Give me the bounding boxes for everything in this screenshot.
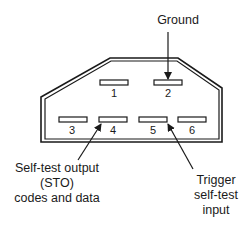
pin-2: 2: [154, 80, 182, 99]
sto-label-line-1: Self-test output: [15, 161, 100, 175]
trigger-label-line-3: input: [202, 203, 230, 217]
pin-3-label: 3: [69, 124, 75, 136]
pin-1-label: 1: [111, 87, 117, 99]
sto-callout: Self-test output (STO) codes and data: [14, 124, 101, 205]
pin-1: 1: [100, 80, 128, 99]
pin-6: 6: [178, 117, 206, 136]
pin-6-label: 6: [189, 124, 195, 136]
ground-callout: Ground: [157, 13, 199, 79]
ground-label: Ground: [157, 13, 199, 27]
trigger-label-line-2: self-test: [194, 188, 238, 202]
pin-2-label: 2: [165, 87, 171, 99]
pin-5-label: 5: [150, 124, 156, 136]
connector-diagram: 1 2 3 4 5 6 Ground Self-test output (STO…: [0, 0, 248, 225]
pin-4: 4: [99, 117, 127, 136]
sto-label-line-2: (STO): [40, 176, 74, 190]
trigger-label-line-1: Trigger: [196, 173, 235, 187]
pin-4-label: 4: [110, 124, 116, 136]
pin-5: 5: [139, 117, 167, 136]
sto-label-line-3: codes and data: [14, 191, 100, 205]
trigger-callout: Trigger self-test input: [168, 124, 238, 217]
pin-3: 3: [59, 117, 87, 136]
